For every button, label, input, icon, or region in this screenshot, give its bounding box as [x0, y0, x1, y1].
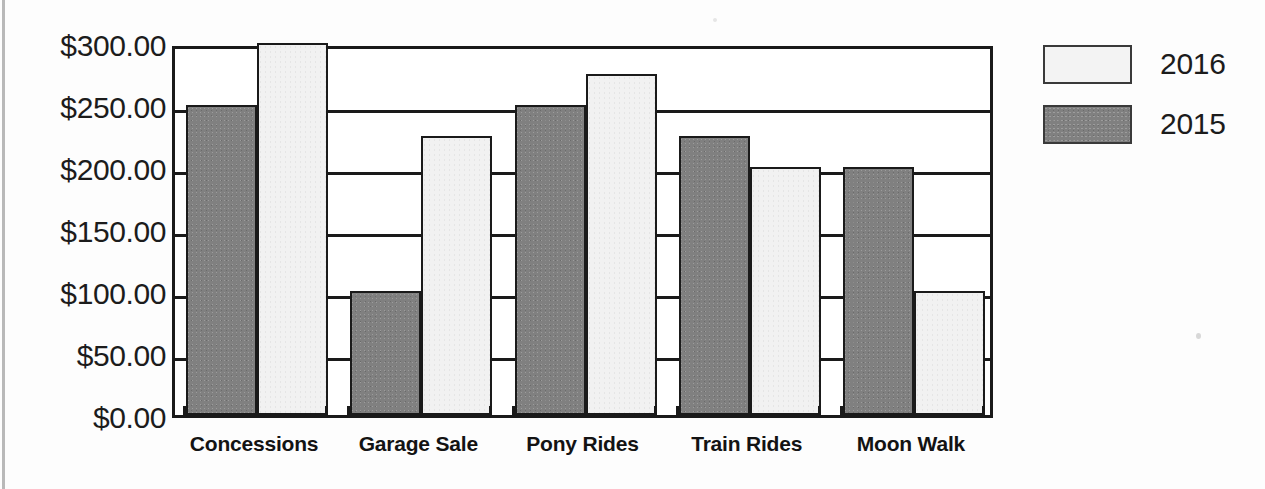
- scan-speck: [1196, 333, 1201, 339]
- y-tick-label: $150.00: [0, 215, 166, 249]
- bars-layer: [175, 49, 990, 415]
- bar-2016: [750, 167, 821, 415]
- bar-2016: [586, 74, 657, 415]
- x-tick: [347, 406, 350, 418]
- y-tick-label: $100.00: [0, 277, 166, 311]
- chart-legend: 20162015: [1043, 41, 1253, 161]
- y-tick-label: $250.00: [0, 91, 166, 125]
- x-tick: [840, 406, 843, 418]
- legend-label-2016: 2016: [1160, 47, 1226, 81]
- legend-item-2015[interactable]: 2015: [1043, 101, 1253, 147]
- legend-swatch-2015: [1043, 105, 1132, 144]
- x-tick: [183, 406, 186, 418]
- x-tick: [654, 406, 657, 418]
- bar-2015: [679, 136, 750, 415]
- x-category-label: Train Rides: [665, 432, 829, 456]
- legend-item-2016[interactable]: 2016: [1043, 41, 1253, 87]
- bar-2015: [515, 105, 586, 415]
- y-tick-label: $0.00: [0, 401, 166, 435]
- bar-2015: [186, 105, 257, 415]
- x-axis-ticks: [172, 418, 993, 432]
- x-category-label: Garage Sale: [336, 432, 500, 456]
- chart-page: $300.00$250.00$200.00$150.00$100.00$50.0…: [0, 0, 1265, 489]
- bar-2016: [914, 291, 985, 415]
- bar-group: [350, 49, 492, 415]
- bar-group: [679, 49, 821, 415]
- legend-label-2015: 2015: [1160, 107, 1226, 141]
- x-tick: [676, 406, 679, 418]
- legend-swatch-2016: [1043, 45, 1132, 84]
- bar-group: [515, 49, 657, 415]
- plot-area: [172, 46, 993, 418]
- y-tick-label: $300.00: [0, 29, 166, 63]
- bar-2015: [843, 167, 914, 415]
- y-tick-label: $200.00: [0, 153, 166, 187]
- x-tick: [325, 406, 328, 418]
- x-category-label: Concessions: [172, 432, 336, 456]
- bar-group: [186, 49, 328, 415]
- x-category-label: Moon Walk: [829, 432, 993, 456]
- bar-group: [843, 49, 985, 415]
- y-tick-label: $50.00: [0, 339, 166, 373]
- bar-2015: [350, 291, 421, 415]
- bar-2016: [257, 43, 328, 415]
- x-tick: [818, 406, 821, 418]
- bar-2016: [421, 136, 492, 415]
- x-tick: [489, 406, 492, 418]
- x-tick: [982, 406, 985, 418]
- cropped-chart-title: [380, 0, 800, 2]
- x-axis: ConcessionsGarage SalePony RidesTrain Ri…: [172, 432, 993, 472]
- y-axis: $300.00$250.00$200.00$150.00$100.00$50.0…: [0, 0, 166, 489]
- x-tick: [512, 406, 515, 418]
- x-category-label: Pony Rides: [500, 432, 664, 456]
- scan-speck: [713, 18, 717, 22]
